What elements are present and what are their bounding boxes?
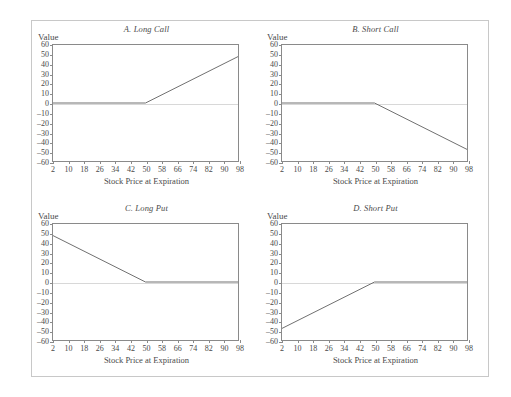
x-tick-mark xyxy=(131,340,132,343)
x-tick-mark xyxy=(422,161,423,164)
y-tick-label: 60 xyxy=(41,220,49,228)
y-tick-label: –20 xyxy=(37,120,49,128)
x-tick-label: 98 xyxy=(236,166,244,174)
y-tick-label: 30 xyxy=(270,250,278,258)
y-tick-label: –30 xyxy=(37,130,49,138)
y-tick-label: –10 xyxy=(266,289,278,297)
x-tick-label: 2 xyxy=(51,166,55,174)
x-tick-mark xyxy=(69,340,70,343)
x-tick-mark xyxy=(344,340,345,343)
x-tick-label: 82 xyxy=(205,345,213,353)
x-tick-mark xyxy=(469,340,470,343)
y-tick-label: 40 xyxy=(270,240,278,248)
panel-short-call: B. Short Call Value 6050403020100–10–20–… xyxy=(261,21,490,199)
y-tick-label: –50 xyxy=(266,328,278,336)
x-tick-mark xyxy=(100,340,101,343)
x-tick-mark xyxy=(391,161,392,164)
y-tick-label: 10 xyxy=(41,90,49,98)
x-tick-mark xyxy=(391,340,392,343)
x-tick-mark xyxy=(344,161,345,164)
x-tick-mark xyxy=(240,340,241,343)
plot-area: 6050403020100–10–20–30–40–50–60210182634… xyxy=(281,223,468,341)
x-tick-mark xyxy=(360,340,361,343)
payoff-polyline xyxy=(282,282,467,328)
x-tick-label: 26 xyxy=(96,345,104,353)
x-tick-mark xyxy=(298,340,299,343)
x-tick-label: 82 xyxy=(205,166,213,174)
y-tick-label: 50 xyxy=(270,51,278,59)
y-tick-label: 40 xyxy=(270,61,278,69)
y-tick-label: –40 xyxy=(37,318,49,326)
x-tick-label: 90 xyxy=(449,166,457,174)
plot-area: 6050403020100–10–20–30–40–50–60210182634… xyxy=(52,44,239,162)
x-tick-mark xyxy=(69,161,70,164)
y-tick-label: 30 xyxy=(41,71,49,79)
x-tick-label: 34 xyxy=(340,166,348,174)
x-tick-mark xyxy=(147,340,148,343)
x-tick-label: 26 xyxy=(325,166,333,174)
x-tick-label: 98 xyxy=(236,345,244,353)
x-tick-mark xyxy=(282,161,283,164)
x-tick-label: 50 xyxy=(143,166,151,174)
x-tick-mark xyxy=(282,340,283,343)
x-tick-label: 26 xyxy=(96,166,104,174)
x-tick-label: 42 xyxy=(356,166,364,174)
plot-area: 6050403020100–10–20–30–40–50–60210182634… xyxy=(281,44,468,162)
x-tick-label: 74 xyxy=(189,166,197,174)
panel-title: B. Short Call xyxy=(261,24,490,34)
x-tick-label: 74 xyxy=(418,166,426,174)
x-tick-mark xyxy=(53,340,54,343)
x-axis-label: Stock Price at Expiration xyxy=(32,176,261,186)
x-tick-label: 74 xyxy=(189,345,197,353)
x-tick-label: 2 xyxy=(280,166,284,174)
x-tick-label: 90 xyxy=(449,345,457,353)
x-tick-label: 58 xyxy=(158,166,166,174)
y-tick-label: –40 xyxy=(266,139,278,147)
x-tick-label: 58 xyxy=(158,345,166,353)
y-tick-label: –40 xyxy=(37,139,49,147)
x-tick-mark xyxy=(240,161,241,164)
x-tick-label: 26 xyxy=(325,345,333,353)
x-tick-mark xyxy=(193,340,194,343)
y-tick-label: –50 xyxy=(266,149,278,157)
y-tick-label: –10 xyxy=(37,289,49,297)
x-tick-mark xyxy=(115,161,116,164)
x-tick-label: 82 xyxy=(434,345,442,353)
y-tick-label: 60 xyxy=(270,41,278,49)
y-tick-label: 10 xyxy=(270,269,278,277)
x-tick-mark xyxy=(224,340,225,343)
x-tick-label: 34 xyxy=(340,345,348,353)
y-tick-label: –50 xyxy=(37,328,49,336)
x-tick-mark xyxy=(313,161,314,164)
payoff-line xyxy=(53,224,238,340)
x-tick-label: 10 xyxy=(65,345,73,353)
x-tick-label: 58 xyxy=(387,166,395,174)
y-tick-label: –20 xyxy=(37,299,49,307)
x-tick-mark xyxy=(313,340,314,343)
x-tick-mark xyxy=(329,161,330,164)
x-tick-mark xyxy=(224,161,225,164)
x-tick-mark xyxy=(422,340,423,343)
x-tick-mark xyxy=(178,161,179,164)
y-tick-label: 50 xyxy=(41,230,49,238)
y-tick-label: –50 xyxy=(37,149,49,157)
x-tick-mark xyxy=(360,161,361,164)
x-tick-label: 2 xyxy=(51,345,55,353)
x-tick-label: 90 xyxy=(220,345,228,353)
x-tick-label: 50 xyxy=(372,166,380,174)
x-tick-label: 18 xyxy=(80,166,88,174)
y-tick-label: 20 xyxy=(270,80,278,88)
panel-long-call: A. Long Call Value 6050403020100–10–20–3… xyxy=(32,21,261,199)
x-tick-label: 34 xyxy=(111,166,119,174)
y-tick-label: –60 xyxy=(37,159,49,167)
y-tick-label: –60 xyxy=(266,159,278,167)
payoff-line xyxy=(53,45,238,161)
x-tick-mark xyxy=(178,340,179,343)
x-tick-mark xyxy=(162,161,163,164)
y-tick-label: 10 xyxy=(270,90,278,98)
x-tick-mark xyxy=(469,161,470,164)
y-tick-label: –20 xyxy=(266,120,278,128)
figure-frame: A. Long Call Value 6050403020100–10–20–3… xyxy=(31,20,489,377)
x-tick-mark xyxy=(407,340,408,343)
y-tick-label: 50 xyxy=(270,230,278,238)
